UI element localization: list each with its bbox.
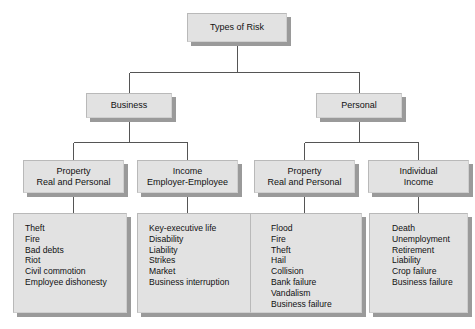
risk-list-item: Bank failure [271,277,355,288]
risk-list-item: Fire [25,234,120,245]
leaf-list-business-income: Key-executive lifeDisabilityLiabilityStr… [137,213,262,313]
node-personal-individual-income: Individual Income [368,160,469,193]
node-label-line2: Employer-Employee [147,177,228,188]
node-label: Business [111,100,148,111]
risk-list-item: Theft [25,223,120,234]
risk-list-item: Riot [25,255,120,266]
node-business-income: Income Employer-Employee [137,160,238,193]
node-label-line1: Property [287,166,321,177]
node-label-line1: Individual [399,166,437,177]
risk-list-item: Vandalism [271,288,355,299]
risk-list-item: Key-executive life [149,223,255,234]
node-label-line2: Income [404,177,434,188]
node-types-of-risk: Types of Risk [187,13,287,42]
risk-list-item: Flood [271,223,355,234]
leaf-list-personal-property: FloodFireTheftHailCollisionBank failureV… [250,213,362,313]
risk-list-item: Fire [271,234,355,245]
risk-list-item: Bad debts [25,245,120,256]
risk-list-item: Crop failure [392,266,461,277]
risk-list-item: Liability [149,245,255,256]
leaf-list-business-property: TheftFireBad debtsRiotCivil commotionEmp… [13,213,127,313]
node-business-property: Property Real and Personal [23,160,124,193]
risk-list: Key-executive lifeDisabilityLiabilityStr… [138,223,261,288]
risk-list-item: Strikes [149,255,255,266]
risk-list-item: Theft [271,245,355,256]
node-label-line1: Property [56,166,90,177]
risk-list-item: Civil commotion [25,266,120,277]
node-label-line2: Real and Personal [36,177,110,188]
risk-list-item: Death [392,223,461,234]
risk-list: TheftFireBad debtsRiotCivil commotionEmp… [14,223,126,288]
leaf-list-personal-individual-income: DeathUnemploymentRetirementLiabilityCrop… [369,213,468,313]
risk-list-item: Liability [392,255,461,266]
risk-list-item: Retirement [392,245,461,256]
risk-list-item: Business failure [271,299,355,310]
risk-list-item: Employee dishonesty [25,277,120,288]
node-personal: Personal [316,93,402,118]
node-personal-property: Property Real and Personal [254,160,355,193]
risk-list: DeathUnemploymentRetirementLiabilityCrop… [370,223,467,288]
risk-list-item: Collision [271,266,355,277]
risk-list-item: Market [149,266,255,277]
node-label-line2: Real and Personal [267,177,341,188]
risk-list-item: Hail [271,255,355,266]
risk-list-item: Disability [149,234,255,245]
node-label: Personal [341,100,377,111]
node-label-line1: Income [173,166,203,177]
risk-list-item: Business failure [392,277,461,288]
risk-types-hierarchy-diagram: Types of Risk Business Personal Property… [0,0,475,329]
node-business: Business [86,93,172,118]
node-label: Types of Risk [210,22,264,33]
risk-list: FloodFireTheftHailCollisionBank failureV… [251,223,361,309]
risk-list-item: Business interruption [149,277,255,288]
risk-list-item: Unemployment [392,234,461,245]
